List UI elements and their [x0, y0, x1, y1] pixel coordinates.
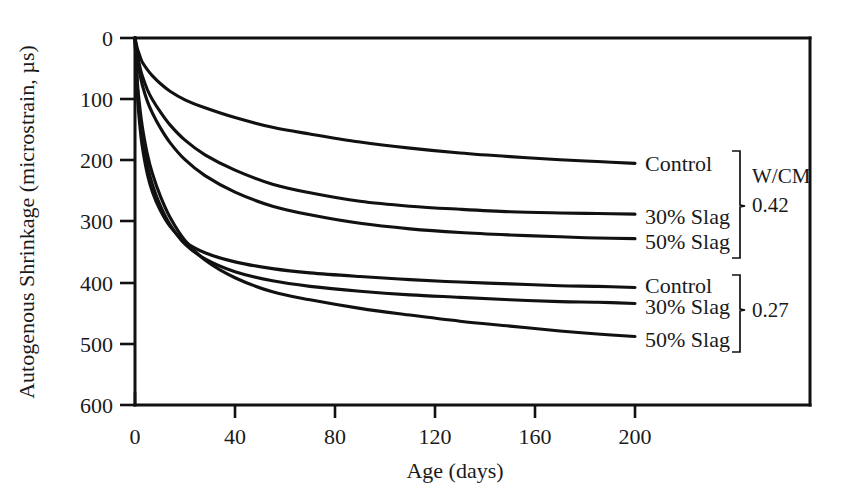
group-value-042: 0.42 — [752, 193, 789, 217]
y-tick-label-300: 300 — [80, 209, 113, 234]
series-label-wcm042-50-slag: 50% Slag — [645, 229, 730, 254]
chart-svg: 0 100 200 300 400 500 600 0 40 80 120 16… — [0, 0, 848, 498]
group-value-027: 0.27 — [752, 298, 789, 322]
y-tick-label-200: 200 — [80, 148, 113, 173]
x-tick-label-40: 40 — [224, 424, 246, 449]
x-tick-label-160: 160 — [519, 424, 552, 449]
y-tick-label-400: 400 — [80, 271, 113, 296]
x-tick-label-80: 80 — [324, 424, 346, 449]
x-tick-label-0: 0 — [130, 424, 141, 449]
y-tick-label-500: 500 — [80, 332, 113, 357]
y-tick-label-600: 600 — [80, 393, 113, 418]
series-label-wcm042-30-slag: 30% Slag — [645, 204, 730, 229]
y-tick-label-100: 100 — [80, 87, 113, 112]
y-axis-title: Autogenous Shrinkage (microstrain, µs) — [14, 45, 39, 399]
series-label-wcm027-50-slag: 50% Slag — [645, 327, 730, 352]
x-axis-title: Age (days) — [406, 458, 503, 483]
series-label-wcm042-control: Control — [645, 151, 712, 176]
x-tick-label-200: 200 — [619, 424, 652, 449]
series-label-wcm027-30-slag: 30% Slag — [645, 294, 730, 319]
group-header-wcm: W/CM — [752, 164, 811, 188]
y-tick-label-0: 0 — [102, 26, 113, 51]
x-tick-label-120: 120 — [419, 424, 452, 449]
chart-figure: 0 100 200 300 400 500 600 0 40 80 120 16… — [0, 0, 848, 498]
